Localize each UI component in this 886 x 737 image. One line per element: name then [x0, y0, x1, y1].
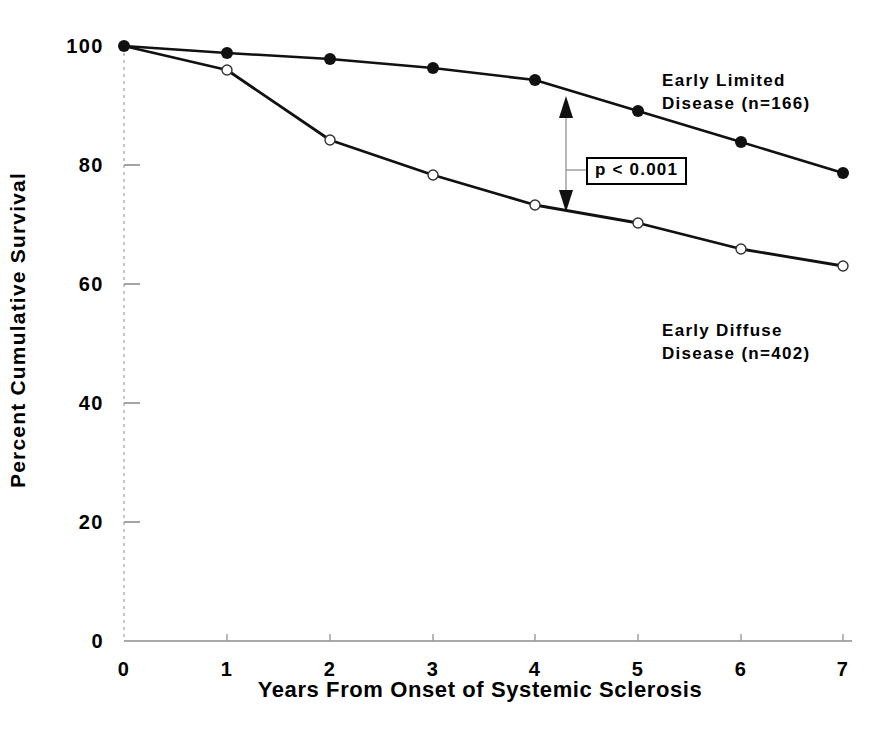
pvalue-arrow	[559, 96, 590, 212]
y-axis-title: Percent Cumulative Survival	[6, 172, 30, 488]
series-label-early-limited-line2: Disease (n=166)	[662, 93, 811, 116]
series-label-early-limited: Early Limited Disease (n=166)	[662, 70, 811, 116]
x-tick-label-7: 7	[837, 658, 850, 681]
series-label-early-diffuse-line1: Early Diffuse	[662, 320, 811, 343]
x-axis-title: Years From Onset of Systemic Sclerosis	[258, 677, 703, 703]
y-tick-label-80: 80	[48, 154, 104, 177]
y-tick-label-0: 0	[48, 630, 104, 653]
p-value-annotation: p < 0.001	[586, 157, 687, 185]
survival-curve-figure: 100 80 60 40 20 0 0 1 2 3 4 5 6 7 Percen…	[0, 0, 886, 737]
x-tick-label-0: 0	[118, 658, 131, 681]
y-tick-label-60: 60	[48, 273, 104, 296]
x-tick-label-1: 1	[221, 658, 234, 681]
series-label-early-diffuse: Early Diffuse Disease (n=402)	[662, 320, 811, 366]
y-tick-label-40: 40	[48, 392, 104, 415]
x-tick-label-6: 6	[735, 658, 748, 681]
y-tick-label-100: 100	[48, 35, 104, 58]
y-tick-label-20: 20	[48, 511, 104, 534]
y-axis-ticks	[124, 165, 140, 522]
series-label-early-diffuse-line2: Disease (n=402)	[662, 343, 811, 366]
x-axis-ticks	[227, 634, 843, 641]
series-label-early-limited-line1: Early Limited	[662, 70, 811, 93]
